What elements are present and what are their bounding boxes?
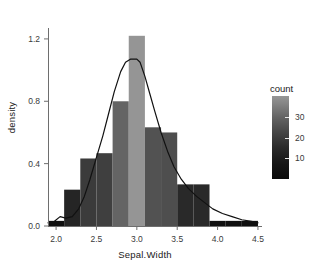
x-axis-title: Sepal.Width — [0, 249, 290, 260]
x-tick-label: 2.5 — [91, 234, 103, 244]
x-tick-label: 3.0 — [131, 234, 143, 244]
histogram-bar — [48, 221, 64, 226]
histogram-bar — [113, 101, 129, 226]
legend-tickmark — [285, 138, 289, 139]
histogram-bar — [64, 190, 80, 226]
y-axis-title: density — [6, 83, 17, 153]
x-tick-label: 3.5 — [171, 234, 183, 244]
histogram-bar — [129, 36, 145, 226]
y-axis-tickmarks — [44, 39, 48, 226]
x-tick-label: 4.5 — [252, 234, 264, 244]
x-tick-label: 4.0 — [212, 234, 224, 244]
legend-tick-label: 10 — [295, 153, 304, 163]
histogram-bars — [48, 36, 258, 226]
legend-tickmark — [285, 117, 289, 118]
y-tick-label: 1.2 — [18, 34, 40, 44]
y-tick-label: 0.4 — [18, 159, 40, 169]
histogram-bar — [210, 221, 226, 226]
histogram-density-chart: Sepal.Width density 2.02.53.03.54.04.5 0… — [0, 0, 331, 280]
histogram-bar — [145, 127, 161, 226]
x-tick-label: 2.0 — [50, 234, 62, 244]
histogram-bar — [226, 221, 242, 226]
histogram-bar — [161, 132, 177, 226]
histogram-bar — [96, 153, 112, 226]
y-tick-label: 0.8 — [18, 96, 40, 106]
legend-tick-label: 30 — [295, 112, 304, 122]
y-tick-label: 0.0 — [18, 221, 40, 231]
legend-title: count — [270, 83, 293, 94]
legend-tickmark — [285, 158, 289, 159]
legend-tick-label: 20 — [295, 133, 304, 143]
histogram-bar — [80, 158, 96, 226]
